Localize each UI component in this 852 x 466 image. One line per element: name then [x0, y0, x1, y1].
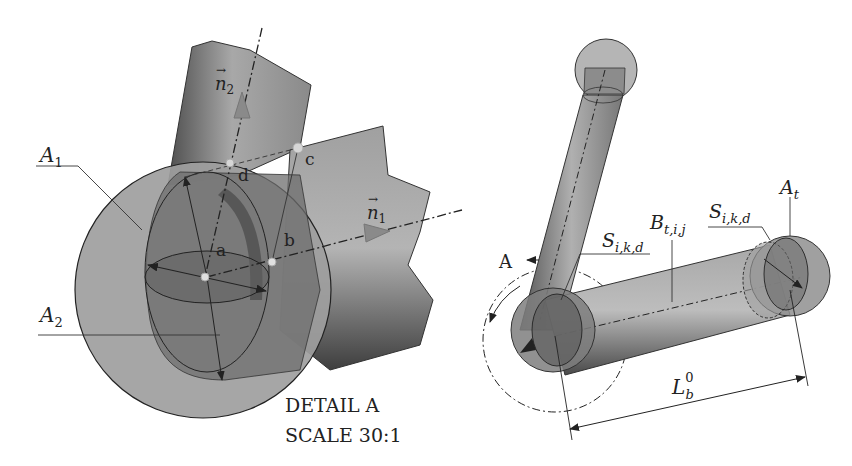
left-node-inner	[532, 294, 582, 366]
point-center	[201, 273, 209, 281]
detail-a-view: A1 A2 n2 → n1 → a b c d DETAIL A SCALE 3…	[36, 28, 462, 446]
point-c-marker	[293, 143, 303, 153]
strut-node-diagram: A1 A2 n2 → n1 → a b c d DETAIL A SCALE 3…	[0, 0, 852, 466]
label-length: L0b	[671, 370, 694, 402]
label-point-b: b	[284, 230, 295, 250]
label-a1: A1	[38, 143, 63, 170]
label-node-at: At	[778, 176, 800, 202]
label-point-c: c	[305, 149, 315, 169]
label-point-a: a	[216, 240, 226, 260]
detail-title: DETAIL A	[285, 394, 380, 416]
vector-arrow-n1: →	[368, 192, 378, 206]
leader-s-right	[708, 227, 770, 240]
label-detail-ref: A	[498, 251, 513, 272]
label-strut-right: Si,k,d	[709, 200, 751, 226]
label-point-d: d	[238, 165, 249, 185]
label-beam: Bt,i,j	[649, 211, 686, 237]
label-strut-left: Si,k,d	[602, 229, 644, 255]
strut-assembly-view: A Si,k,d Bt,i,j Si,k,d At L0b	[483, 39, 830, 440]
point-d-marker	[226, 159, 234, 167]
point-b-marker	[268, 258, 276, 266]
right-node-inner	[764, 238, 808, 310]
detail-scale: SCALE 30:1	[285, 424, 401, 446]
label-a2: A2	[38, 303, 63, 330]
vector-arrow-n2: →	[216, 63, 226, 77]
